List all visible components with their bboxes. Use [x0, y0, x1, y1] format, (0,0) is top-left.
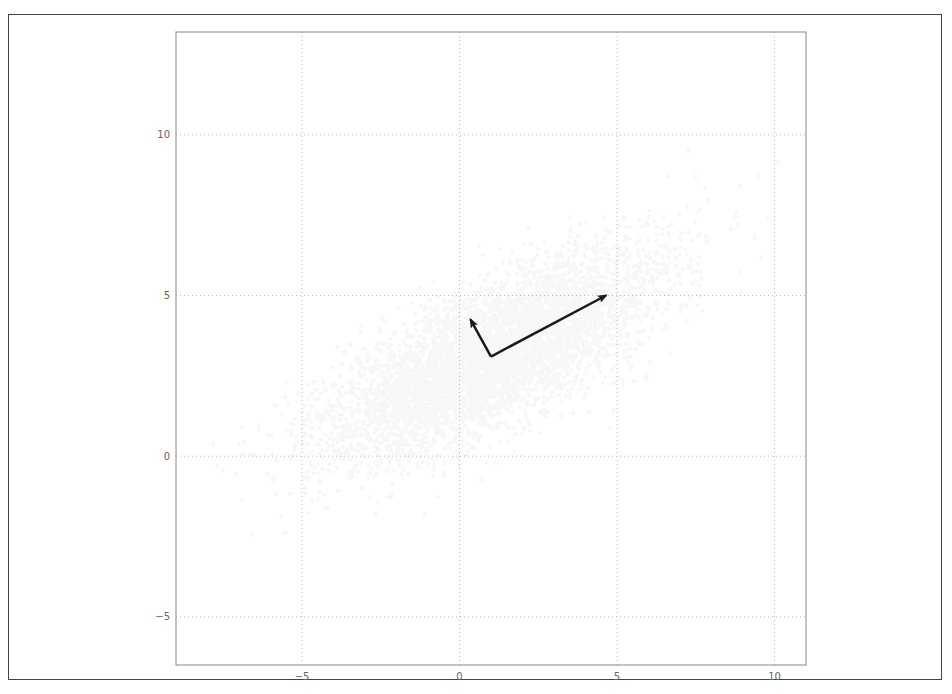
x-tick-label: −5	[295, 671, 310, 682]
x-tick-label: 0	[456, 671, 462, 682]
scatter-points	[211, 149, 780, 537]
x-tick-label: 10	[768, 671, 781, 682]
y-tick-label: −5	[155, 611, 170, 622]
scatter-chart: −50510 −50510	[0, 0, 952, 694]
y-axis-tick-labels: −50510	[155, 129, 170, 622]
synthetic-point-cloud	[211, 149, 780, 537]
x-axis-tick-labels: −50510	[295, 671, 781, 682]
y-tick-label: 10	[157, 129, 170, 140]
x-tick-label: 5	[614, 671, 620, 682]
y-tick-label: 5	[164, 290, 170, 301]
y-tick-label: 0	[164, 451, 170, 462]
